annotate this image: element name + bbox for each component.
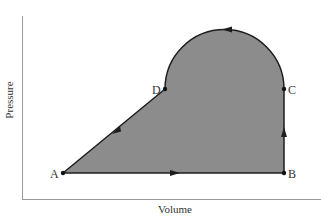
label-b: B — [288, 167, 296, 181]
label-d: D — [152, 83, 161, 97]
cycle-region — [63, 30, 284, 174]
x-axis-label: Volume — [158, 203, 192, 215]
point-b — [282, 171, 286, 175]
label-a: A — [50, 167, 59, 181]
label-c: C — [288, 83, 296, 97]
y-axis-label: Pressure — [3, 81, 15, 118]
point-a — [61, 171, 65, 175]
pv-diagram: A B C D Volume Pressure — [0, 0, 321, 218]
point-c — [282, 87, 286, 91]
point-d — [163, 87, 167, 91]
